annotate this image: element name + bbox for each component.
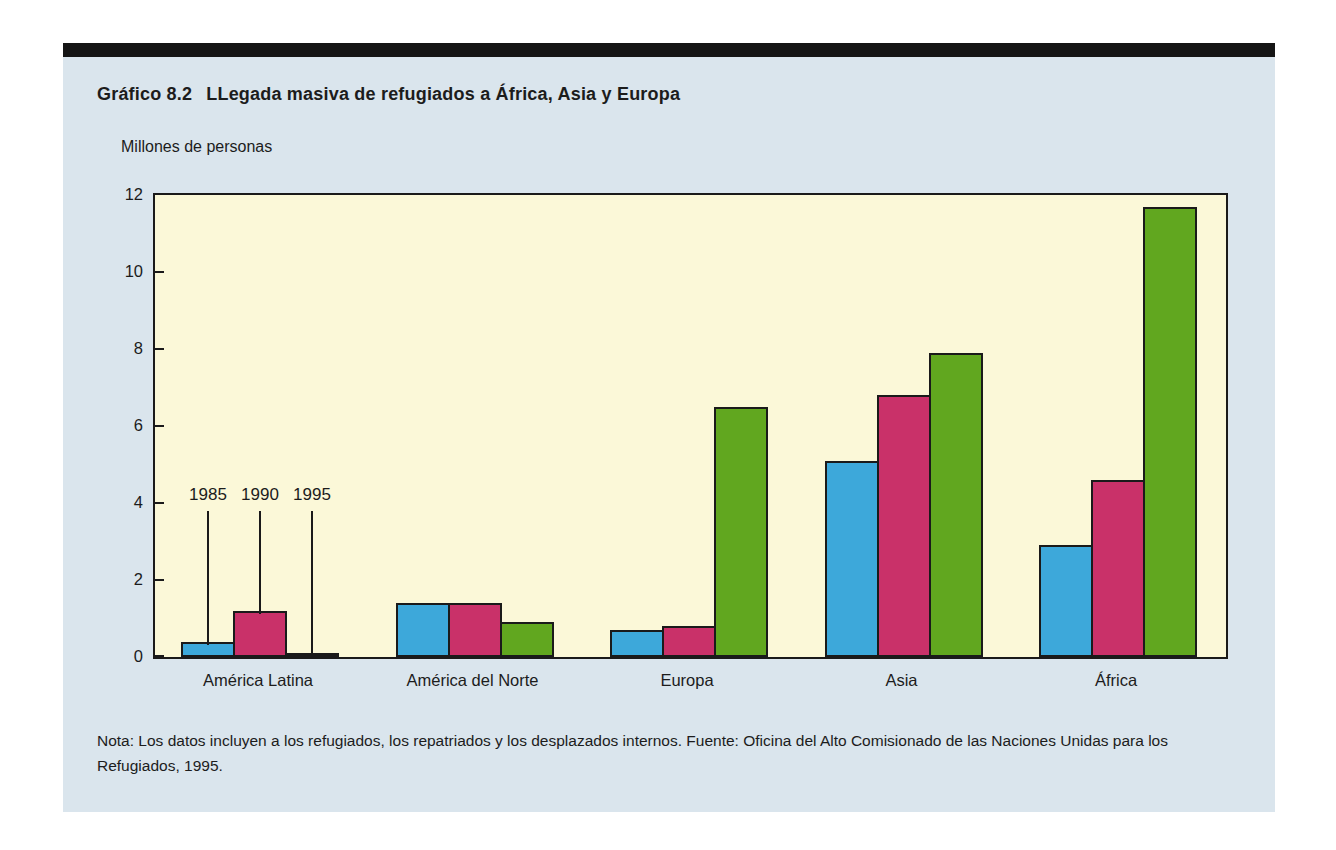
- y-axis-title: Millones de personas: [121, 138, 272, 156]
- y-axis-tick-label: 2: [63, 569, 143, 589]
- bar-europa-1990: [662, 626, 716, 657]
- bar-américa-del-norte-1995: [500, 622, 554, 657]
- bar-asia-1995: [929, 353, 983, 657]
- figure-number: Gráfico 8.2: [97, 84, 192, 104]
- bar-asia-1985: [825, 461, 879, 657]
- year-leader-line-1995: [311, 511, 313, 656]
- y-axis-tick-mark: [155, 348, 164, 350]
- figure-title-text: LLegada masiva de refugiados a África, A…: [206, 84, 680, 104]
- panel-top-rule: [63, 43, 1275, 57]
- y-axis-tick-mark: [155, 425, 164, 427]
- figure-panel: Gráfico 8.2LLegada masiva de refugiados …: [63, 57, 1275, 812]
- bar-europa-1985: [610, 630, 664, 657]
- series-year-label-1990: 1990: [241, 485, 279, 505]
- bar-europa-1995: [714, 407, 768, 657]
- bar-américa-del-norte-1985: [396, 603, 450, 657]
- bar-américa-del-norte-1990: [448, 603, 502, 657]
- figure-title: Gráfico 8.2LLegada masiva de refugiados …: [97, 84, 680, 105]
- y-axis-tick-label: 0: [63, 646, 143, 666]
- x-axis-category-label: Asia: [885, 671, 917, 690]
- y-axis-tick-label: 6: [63, 415, 143, 435]
- x-axis-category-label: América Latina: [203, 671, 313, 690]
- y-axis-tick-mark: [155, 271, 164, 273]
- y-axis-tick-mark: [155, 655, 164, 657]
- bar-asia-1990: [877, 395, 931, 657]
- series-year-label-1985: 1985: [189, 485, 227, 505]
- source-note: Nota: Los datos incluyen a los refugiado…: [97, 729, 1215, 779]
- bar-áfrica-1995: [1143, 207, 1197, 657]
- x-axis-category-label: América del Norte: [406, 671, 538, 690]
- bar-áfrica-1985: [1039, 545, 1093, 657]
- x-axis-category-label: Europa: [660, 671, 713, 690]
- bar-áfrica-1990: [1091, 480, 1145, 657]
- x-axis-category-label: África: [1095, 671, 1137, 690]
- y-axis-tick-label: 10: [63, 261, 143, 281]
- y-axis-tick-label: 12: [63, 184, 143, 204]
- year-leader-line-1990: [259, 511, 261, 614]
- bar-américa-latina-1990: [233, 611, 287, 657]
- y-axis-tick-label: 8: [63, 338, 143, 358]
- y-axis-tick-mark: [155, 502, 164, 504]
- year-leader-line-1985: [207, 511, 209, 645]
- y-axis-tick-mark: [155, 579, 164, 581]
- bar-chart-plot-area: 198519901995: [153, 193, 1228, 659]
- series-year-label-1995: 1995: [293, 485, 331, 505]
- y-axis-tick-label: 4: [63, 492, 143, 512]
- scanned-report-page: Gráfico 8.2LLegada masiva de refugiados …: [0, 0, 1336, 850]
